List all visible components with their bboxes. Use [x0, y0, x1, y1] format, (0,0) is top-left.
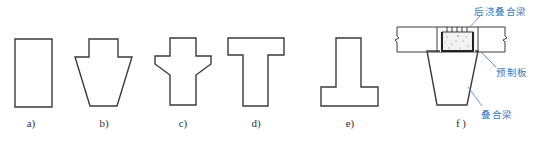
section-a-rectangle	[15, 39, 52, 107]
callout-cast-in-place-beam: 后浇叠合梁	[474, 4, 527, 18]
section-c-cross	[155, 38, 211, 105]
beam-sections-diagram	[0, 0, 535, 142]
section-f-composite-beam	[395, 16, 507, 106]
break-mark-left	[395, 27, 399, 52]
leader-precast-slab	[481, 52, 496, 67]
section-b-trapezoid	[75, 39, 132, 106]
panel-label-d: d)	[251, 117, 260, 129]
leader-composite-beam	[468, 87, 482, 106]
panel-label-b: b)	[99, 117, 108, 129]
callout-precast-slab: 预制板	[496, 65, 528, 79]
precast-beam	[427, 51, 478, 105]
panel-label-a: a)	[27, 117, 36, 129]
panel-label-e: e)	[346, 117, 355, 129]
callout-composite-beam: 叠合梁	[481, 107, 513, 121]
section-d-t-beam	[228, 38, 284, 106]
panel-label-c: c)	[179, 117, 188, 129]
section-e-inverted-t-beam	[321, 38, 378, 106]
cast-in-place-core	[440, 30, 475, 52]
break-mark-right	[503, 27, 507, 52]
panel-label-f: f )	[456, 117, 466, 129]
